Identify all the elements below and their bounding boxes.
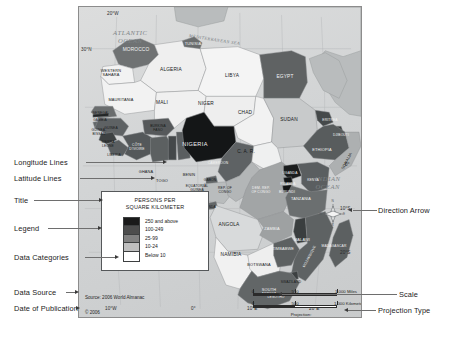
country-label: C. A. R. [237, 149, 255, 154]
country-label: MADAGASCAR [322, 245, 347, 249]
country-label: MALI [156, 100, 168, 105]
legend-title-line1: PERSONS PER [134, 197, 175, 203]
callout-direction-arrow: Direction Arrow [378, 206, 430, 215]
country-label: MOROCCO [123, 47, 150, 52]
callout-data-categories: Data Categories [14, 253, 69, 262]
compass-south-label: S [332, 223, 334, 227]
callout-arrow-icon [115, 255, 119, 259]
callout-latitude-lines: Latitude Lines [14, 174, 61, 183]
country-label: CHAD [238, 110, 252, 115]
scale-tick-kilometers: 0 [252, 301, 254, 306]
ocean-label-line2: OCEAN [315, 183, 340, 190]
country-label: BURUNDI [279, 191, 295, 195]
callout-leader [48, 228, 99, 229]
country-label: GHANA [139, 170, 154, 174]
graticule-label-longitude: 0° [191, 306, 196, 311]
scale-tick-miles: 0 [252, 289, 254, 294]
country-label: MAURITANIA [108, 98, 133, 102]
legend-swatch [124, 235, 139, 244]
country-label: NAMIBIA [221, 252, 242, 257]
compass-north-label: N [332, 199, 334, 203]
country-label: ZIMBABWE [272, 247, 294, 251]
legend-swatch [124, 218, 139, 227]
country-label: MALAWI [294, 238, 310, 242]
callout-scale: Scale [399, 290, 418, 299]
scale-tick-kilometers: 1,000 Kilometers [334, 301, 362, 306]
ocean-label: ATLANTIC OCEAN [113, 29, 148, 45]
country-label: DEM. REP.OF CONGO [251, 187, 270, 194]
callout-arrow-icon [151, 176, 155, 180]
callout-arrow-icon [278, 292, 282, 296]
legend-category-label: 250 and above [145, 217, 178, 226]
country-label: LIBYA [225, 73, 239, 78]
callout-arrow-icon [98, 226, 102, 230]
country-label: SIERRALEONE [101, 141, 114, 148]
projection-type-text: Projection: Azimuthal Equal Area Project… [249, 312, 353, 318]
country-label: ETHIOPIA [312, 148, 331, 152]
legend-body: 250 and above100-24925-9910-24Below 10 [123, 217, 208, 262]
callout-leader [80, 178, 152, 179]
country-label: GAMBIA [93, 119, 107, 123]
callout-date-of-publication: Date of Publication [14, 304, 78, 313]
country-label: ERITREA [322, 119, 337, 123]
graticule-label-latitude: 20°S [340, 250, 350, 255]
callout-arrow-icon [76, 306, 80, 310]
legend-category-label: Below 10 [145, 251, 178, 260]
country-label: SUDAN [280, 117, 298, 122]
callout-arrow-icon [75, 290, 79, 294]
scale-tick-kilometers: 500 [291, 301, 298, 306]
country-label: BENIN [183, 173, 196, 177]
country-label: NIGER [198, 101, 214, 106]
country-label: SWAZILAND [281, 281, 301, 285]
projection-name: Azimuthal Equal Area Projection [249, 317, 353, 318]
country-label: KENYA [307, 179, 319, 183]
callout-data-source: Data Source [14, 288, 56, 297]
country-label: WESTERNSAHARA [101, 69, 122, 78]
direction-arrow: N E S W [320, 201, 346, 227]
country-label: UGANDA [282, 172, 297, 176]
compass-east-label: E [343, 212, 345, 216]
country-label: BOTSWANA [247, 263, 270, 267]
callout-leader [348, 310, 376, 311]
publication-date-text: © 2006 [85, 310, 100, 315]
callout-longitude-lines: Longitude Lines [14, 158, 68, 167]
legend-title: PERSONS PER SQUARE KILOMETER [102, 197, 208, 212]
legend-swatch [124, 252, 139, 261]
country-label: TOGO [156, 179, 168, 183]
country-label: DJIBOUTI [333, 134, 349, 138]
legend-swatch [124, 226, 139, 235]
country-label: ZAMBIA [264, 227, 279, 231]
country-label: RWANDA [280, 183, 295, 187]
callout-arrow-icon [348, 208, 352, 212]
scale-row-kilometers: 0 500 1,000 Kilometers [247, 301, 355, 311]
graticule-label-longitude: 10°W [105, 306, 117, 311]
legend-title-line2: SQUARE KILOMETER [126, 204, 185, 210]
callout-arrow-icon [99, 198, 103, 202]
data-source-text: Source: 2006 World Almanac [85, 295, 144, 300]
legend-category-labels: 250 and above100-24925-9910-24Below 10 [145, 217, 178, 262]
callout-arrow-icon [344, 308, 348, 312]
country-label: REP. OFCONGO [218, 187, 232, 194]
map-scale-bar: 0 500 1,000 Miles 0 500 1,000 Kilometers [247, 289, 355, 311]
callout-arrow-icon [163, 160, 167, 164]
callout-leader [86, 162, 164, 163]
callout-leader [282, 294, 397, 295]
legend-category-label: 10-24 [145, 242, 178, 251]
map-legend: PERSONS PER SQUARE KILOMETER 250 and abo… [101, 191, 209, 271]
graticule-label-longitude: 20°W [107, 11, 119, 16]
ocean-label-line2: OCEAN [118, 37, 143, 44]
callout-leader [34, 200, 100, 201]
country-label: LIBERIA [107, 154, 121, 158]
legend-category-label: 100-249 [145, 225, 178, 234]
callout-legend: Legend [14, 224, 39, 233]
country-label: TUNISIA [185, 42, 201, 46]
country-label: EGYPT [276, 74, 293, 79]
graticule-label-latitude: 30°N [81, 47, 92, 52]
country-label: CÔTED'IVOIRE [129, 144, 144, 151]
country-label: ANGOLA [219, 222, 240, 227]
legend-category-label: 25-99 [145, 234, 178, 243]
country-label: SENEGAL [93, 112, 110, 116]
country-label: GUINEA [104, 127, 118, 131]
callout-leader [85, 257, 116, 258]
country-label: GABON [204, 179, 217, 183]
